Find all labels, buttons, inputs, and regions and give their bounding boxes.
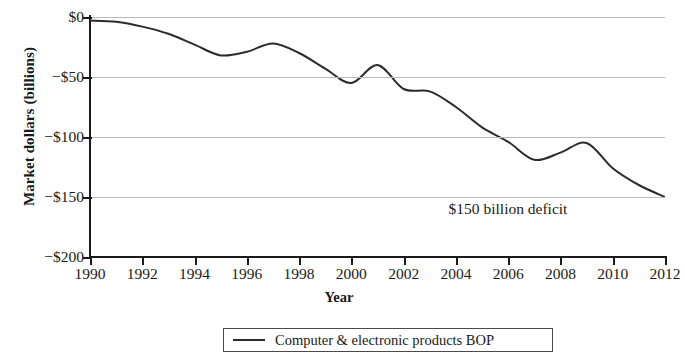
x-axis-tick (351, 258, 353, 265)
y-tick-label: −$100 (26, 129, 84, 145)
x-axis-tick (456, 258, 458, 265)
y-tick-label: $0 (26, 9, 84, 25)
chart-legend: Computer & electronic products BOP (223, 328, 553, 352)
legend-line-swatch (233, 339, 265, 341)
x-tick-label: 2006 (478, 266, 538, 282)
y-axis-tick (83, 197, 92, 199)
x-axis-tick (613, 258, 615, 265)
x-axis-tick (560, 258, 562, 265)
y-axis-tick (83, 17, 92, 19)
y-axis-tick (83, 77, 92, 79)
x-axis-tick (247, 258, 249, 265)
y-tick-label: −$50 (26, 69, 84, 85)
y-tick-label: −$200 (26, 249, 84, 265)
x-axis-tick (195, 258, 197, 265)
x-axis-tick (299, 258, 301, 265)
x-tick-label: 2010 (583, 266, 643, 282)
y-tick-label: −$150 (26, 189, 84, 205)
x-axis-tick (404, 258, 406, 265)
x-tick-label: 2000 (321, 266, 381, 282)
plot-area (90, 17, 665, 257)
x-axis-tick (90, 258, 92, 265)
x-tick-label: 2008 (530, 266, 590, 282)
x-tick-label: 1996 (217, 266, 277, 282)
x-axis-title: Year (0, 289, 678, 306)
deficit-annotation: $150 billion deficit (449, 200, 568, 218)
x-axis-tick (508, 258, 510, 265)
x-axis-tick (665, 258, 667, 265)
x-tick-label: 1994 (165, 266, 225, 282)
gridline (90, 17, 665, 18)
x-tick-label: 2004 (426, 266, 486, 282)
x-tick-label: 1992 (112, 266, 172, 282)
x-tick-label: 2002 (374, 266, 434, 282)
gridline (90, 197, 665, 198)
gridline (90, 77, 665, 78)
x-tick-label: 1990 (60, 266, 120, 282)
legend-item-label: Computer & electronic products BOP (275, 332, 494, 349)
y-axis-tick (83, 137, 92, 139)
x-axis-tick (142, 258, 144, 265)
series-path (90, 21, 665, 197)
x-tick-label: 2012 (635, 266, 685, 282)
x-tick-label: 1998 (269, 266, 329, 282)
gridline (90, 137, 665, 138)
